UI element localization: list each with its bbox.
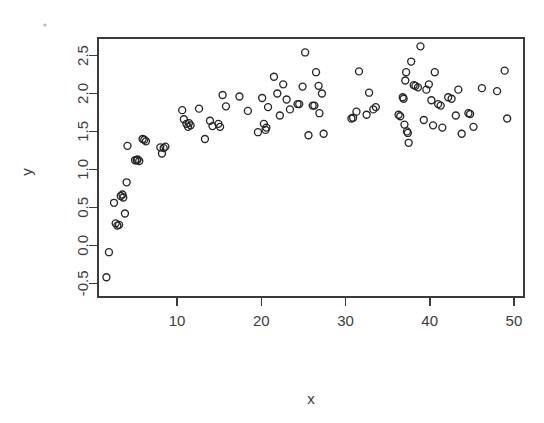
y-tick-label: -0.5 (75, 270, 92, 296)
y-axis-title: y (18, 168, 35, 176)
y-tick-label: 1.0 (75, 159, 92, 180)
y-tick-label: 1.5 (75, 121, 92, 142)
plot-canvas: -0.50.00.51.01.52.02.5 1020304050 y x (0, 0, 544, 423)
x-tick-label: 40 (421, 312, 438, 329)
scatter-plot-figure: -0.50.00.51.01.52.02.5 1020304050 y x (0, 0, 544, 423)
y-tick-label: 2.0 (75, 83, 92, 104)
x-tick-label: 10 (169, 312, 186, 329)
y-tick-label: 0.5 (75, 197, 92, 218)
x-axis-title: x (307, 390, 315, 407)
x-tick-label: 20 (253, 312, 270, 329)
y-tick-label: 0.0 (75, 235, 92, 256)
x-tick-label: 50 (506, 312, 523, 329)
stray-speck (43, 23, 46, 26)
y-tick-label: 2.5 (75, 45, 92, 66)
x-tick-label: 30 (337, 312, 354, 329)
